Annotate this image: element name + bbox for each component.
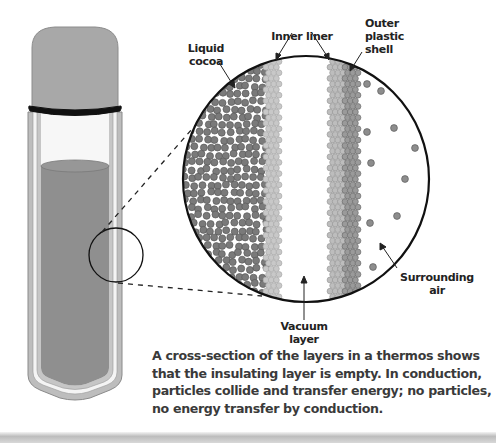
cocoa-particle <box>250 174 257 181</box>
cocoa-particle <box>214 182 221 189</box>
cocoa-particle <box>191 105 198 112</box>
cocoa-particle <box>242 90 249 97</box>
cocoa-particle <box>251 279 258 286</box>
cocoa-particle <box>201 295 208 302</box>
cocoa-particle <box>227 91 234 98</box>
shell-particle <box>355 160 361 166</box>
cocoa-particle <box>183 227 190 234</box>
cocoa-particle <box>242 99 249 106</box>
liner-particle <box>276 126 282 132</box>
shell-particle <box>355 249 361 255</box>
cocoa-particle <box>226 212 233 219</box>
air-particle <box>412 145 419 152</box>
liner-particle <box>274 120 280 126</box>
cocoa-particle <box>210 173 217 180</box>
cocoa-particle <box>242 82 249 89</box>
cocoa-particle <box>237 189 244 196</box>
cocoa-particle <box>253 75 260 82</box>
cocoa-particle <box>246 266 253 273</box>
cocoa-particle <box>181 251 188 258</box>
liner-particle <box>274 232 280 238</box>
cocoa-particle <box>204 158 211 165</box>
cocoa-particle <box>254 296 261 303</box>
cocoa-particle <box>204 129 211 136</box>
cocoa-particle <box>199 67 206 74</box>
liner-particle <box>276 193 282 199</box>
cocoa-particle <box>204 204 211 211</box>
cocoa-particle <box>227 129 234 136</box>
liner-particle <box>276 148 282 154</box>
cocoa-particle <box>213 281 220 288</box>
cocoa-particle <box>195 173 202 180</box>
cocoa-particle <box>253 264 260 271</box>
cocoa-particle <box>242 234 249 241</box>
cocoa-particle <box>212 84 219 91</box>
cocoa-particle <box>237 295 244 302</box>
liner-particle <box>338 53 344 59</box>
cocoa-particle <box>181 282 188 289</box>
liner-particle <box>274 76 280 82</box>
cocoa-particle <box>206 294 213 301</box>
cocoa-particle <box>253 182 260 189</box>
shell-particle <box>355 260 361 266</box>
cocoa-particle <box>180 235 187 242</box>
shell-particle <box>355 126 361 132</box>
cocoa-particle <box>204 92 211 99</box>
label-liquid-cocoa: Liquid cocoa <box>176 42 236 68</box>
liquid-surface <box>41 160 109 172</box>
shell-particle <box>353 132 359 138</box>
cocoa-particle <box>228 204 235 211</box>
cocoa-particle <box>239 256 246 263</box>
cocoa-particle <box>196 98 203 105</box>
zoom-line-bottom <box>118 283 262 296</box>
cocoa-particle <box>216 77 223 84</box>
cocoa-particle <box>221 189 228 196</box>
air-particle <box>394 213 401 220</box>
cocoa-particle <box>184 265 191 272</box>
shell-particle <box>355 70 361 76</box>
cocoa-particle <box>232 297 239 304</box>
cocoa-particle <box>203 197 210 204</box>
shell-particle <box>353 109 359 115</box>
label-line: Vacuum <box>274 320 334 333</box>
cocoa-particle <box>254 68 261 75</box>
cocoa-particle <box>232 106 239 113</box>
cocoa-particle <box>191 183 198 190</box>
air-particle <box>402 176 409 183</box>
cocoa-particle <box>220 273 227 280</box>
cocoa-particle <box>246 219 253 226</box>
cocoa-particle <box>245 151 252 158</box>
cocoa-particle <box>242 173 249 180</box>
shell-particle <box>355 227 361 233</box>
cocoa-particle <box>250 235 257 242</box>
shell-particle <box>355 182 361 188</box>
thermos-diagram: Liquid cocoa Inner liner Outer plastic s… <box>0 0 496 443</box>
cocoa-particle <box>211 272 218 279</box>
cocoa-particle <box>218 129 225 136</box>
cocoa-particle <box>211 159 218 166</box>
shell-particle <box>355 272 361 278</box>
liner-particle <box>274 210 280 216</box>
cocoa-particle <box>189 287 196 294</box>
liner-particle <box>274 255 280 261</box>
cocoa-particle <box>234 174 241 181</box>
liner-particle <box>274 165 280 171</box>
arrow-outer-shell <box>352 52 362 68</box>
air-particle <box>370 264 377 271</box>
shell-particle <box>342 300 348 306</box>
label-line: Surrounding <box>392 271 482 284</box>
cocoa-particle <box>190 251 197 258</box>
cocoa-particle <box>219 121 226 128</box>
cocoa-particle <box>246 183 253 190</box>
cocoa-particle <box>220 158 227 165</box>
cocoa-particle <box>211 234 218 241</box>
cocoa-particle <box>235 60 242 67</box>
cocoa-particle <box>245 113 252 120</box>
cocoa-particle <box>208 188 215 195</box>
cocoa-particle <box>257 249 264 256</box>
cocoa-particle <box>251 244 258 251</box>
shell-particle <box>353 266 359 272</box>
cocoa-particle <box>187 89 194 96</box>
liner-particle <box>332 300 338 306</box>
cocoa-particle <box>235 158 242 165</box>
